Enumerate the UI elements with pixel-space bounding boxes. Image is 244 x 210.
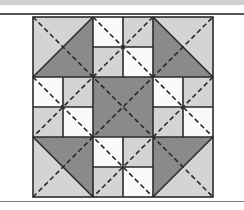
bottom-rule [0,201,244,202]
quilt-diagram [0,0,244,210]
